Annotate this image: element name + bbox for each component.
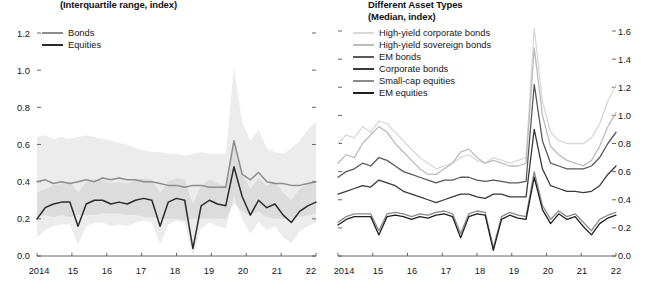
- left-panel-plot: [0, 0, 330, 300]
- figure-root: (Interquartile range, index) Bonds Equit…: [0, 0, 649, 300]
- left-panel: (Interquartile range, index) Bonds Equit…: [0, 0, 330, 300]
- right-panel-plot: [330, 0, 649, 300]
- right-panel: Different Asset Types (Median, index) Hi…: [330, 0, 649, 300]
